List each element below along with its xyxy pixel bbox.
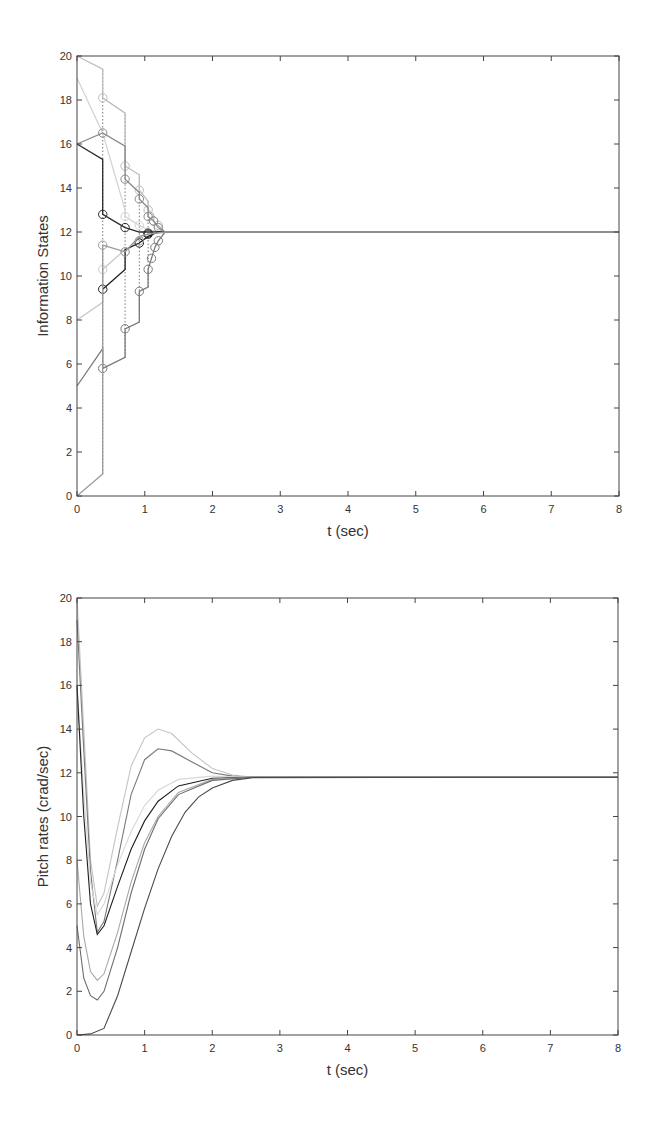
information-states-plot: 01234567802468101214161820t (sec)Informa… xyxy=(0,0,649,560)
x-tick-label: 3 xyxy=(277,503,283,515)
y-tick-label: 4 xyxy=(66,402,72,414)
x-tick-label: 1 xyxy=(142,1042,148,1054)
x-axis-label: t (sec) xyxy=(327,1061,369,1078)
y-tick-label: 2 xyxy=(66,985,72,997)
x-tick-label: 8 xyxy=(615,1042,621,1054)
x-tick-label: 0 xyxy=(74,503,80,515)
x-tick-label: 6 xyxy=(480,503,486,515)
x-tick-label: 0 xyxy=(74,1042,80,1054)
y-tick-label: 6 xyxy=(66,358,72,370)
series-line-agent-6 xyxy=(103,232,619,289)
y-tick-label: 20 xyxy=(60,50,72,62)
series-line-agent-3 xyxy=(77,685,618,914)
series-line-agent-2 xyxy=(77,78,619,232)
y-tick-label: 16 xyxy=(60,138,72,150)
y-tick-label: 12 xyxy=(60,226,72,238)
y-tick-label: 18 xyxy=(60,94,72,106)
y-tick-label: 4 xyxy=(66,942,72,954)
x-tick-label: 1 xyxy=(142,503,148,515)
series-line-agent-5 xyxy=(77,777,618,980)
y-tick-label: 8 xyxy=(66,854,72,866)
x-axis-label: t (sec) xyxy=(327,522,369,539)
y-tick-label: 6 xyxy=(66,898,72,910)
x-tick-label: 7 xyxy=(547,1042,553,1054)
y-tick-label: 8 xyxy=(66,314,72,326)
x-tick-label: 2 xyxy=(209,1042,215,1054)
axes-frame xyxy=(77,56,619,496)
series-line-agent-4 xyxy=(77,685,618,934)
series-line-agent-6 xyxy=(77,777,618,1000)
pitch-rates-chart: 01234567802468101214161820t (sec)Pitch r… xyxy=(0,560,649,1121)
series-line-agent-4 xyxy=(77,144,619,232)
x-tick-label: 5 xyxy=(412,1042,418,1054)
series-line-agent-3 xyxy=(77,133,619,232)
x-tick-label: 7 xyxy=(548,503,554,515)
y-tick-label: 10 xyxy=(60,270,72,282)
information-states-chart: 01234567802468101214161820t (sec)Informa… xyxy=(0,0,649,560)
y-tick-label: 2 xyxy=(66,446,72,458)
x-tick-label: 8 xyxy=(616,503,622,515)
y-tick-label: 20 xyxy=(60,592,72,604)
x-tick-label: 3 xyxy=(277,1042,283,1054)
y-tick-label: 14 xyxy=(60,723,72,735)
y-tick-label: 14 xyxy=(60,182,72,194)
series-line-agent-8 xyxy=(77,232,619,496)
y-tick-label: 16 xyxy=(60,679,72,691)
x-tick-label: 5 xyxy=(413,503,419,515)
series-line-agent-1 xyxy=(77,598,618,906)
y-axis-label: Pitch rates (crad/sec) xyxy=(34,746,51,888)
series-line-agent-1 xyxy=(77,56,619,232)
series-line-agent-2 xyxy=(77,620,618,932)
x-tick-label: 6 xyxy=(480,1042,486,1054)
y-tick-label: 18 xyxy=(60,636,72,648)
pitch-rates-plot: 01234567802468101214161820t (sec)Pitch r… xyxy=(0,560,649,1121)
series-line-agent-7 xyxy=(77,232,619,386)
y-tick-label: 0 xyxy=(66,1029,72,1041)
y-tick-label: 10 xyxy=(60,811,72,823)
x-tick-label: 4 xyxy=(345,503,351,515)
x-tick-label: 4 xyxy=(344,1042,350,1054)
y-axis-label: Information States xyxy=(34,215,51,337)
y-tick-label: 0 xyxy=(66,490,72,502)
y-tick-label: 12 xyxy=(60,767,72,779)
x-tick-label: 2 xyxy=(209,503,215,515)
